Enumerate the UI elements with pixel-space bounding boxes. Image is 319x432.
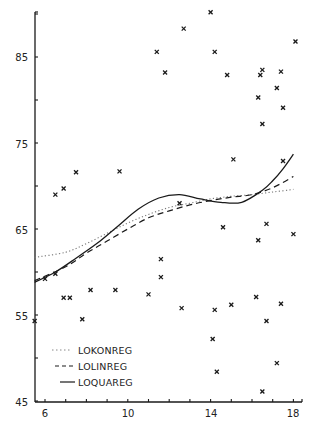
x-tick-label-14: 14 — [205, 408, 218, 419]
curve-loquareg — [35, 154, 294, 282]
x-marker-icon — [118, 169, 122, 173]
x-marker-icon — [213, 308, 217, 312]
x-marker-icon — [80, 317, 84, 321]
curve-lolinreg — [35, 177, 294, 281]
x-marker-icon — [281, 159, 285, 163]
y-tick-label-85: 85 — [15, 52, 28, 63]
y-tick-labels: 85 75 65 55 45 — [15, 52, 28, 408]
x-tick-label-18: 18 — [287, 408, 300, 419]
x-tick-label-10: 10 — [122, 408, 135, 419]
x-marker-icon — [159, 257, 163, 261]
legend-item-loquareg: LOQUAREG — [60, 377, 133, 388]
x-marker-icon — [215, 370, 219, 374]
x-marker-icon — [62, 296, 66, 300]
x-marker-icon — [264, 222, 268, 226]
legend: LOKONREG LOLINREG LOQUAREG — [52, 345, 133, 388]
x-marker-icon — [68, 296, 72, 300]
x-marker-icon — [256, 95, 260, 99]
x-marker-icon — [89, 288, 93, 292]
x-marker-icon — [279, 70, 283, 74]
x-marker-icon — [209, 10, 213, 14]
x-tick-labels: 6 10 14 18 — [42, 408, 300, 419]
x-marker-icon — [293, 40, 297, 44]
x-marker-icon — [260, 122, 264, 126]
scatter-plot: 85 75 65 55 45 6 10 14 18 LOKONREG LOLIN… — [0, 0, 319, 432]
x-marker-icon — [225, 73, 229, 77]
y-tick-label-45: 45 — [15, 397, 28, 408]
x-marker-icon — [147, 292, 151, 296]
x-marker-icon — [53, 193, 57, 197]
y-tick-label-65: 65 — [15, 225, 28, 236]
x-marker-icon — [178, 201, 182, 205]
x-marker-icon — [221, 225, 225, 229]
legend-item-lolinreg: LOLINREG — [55, 361, 127, 372]
x-tick-label-6: 6 — [42, 408, 48, 419]
x-marker-icon — [113, 288, 117, 292]
legend-label-lolinreg: LOLINREG — [78, 361, 127, 372]
x-marker-icon — [182, 27, 186, 31]
legend-label-loquareg: LOQUAREG — [78, 377, 133, 388]
x-marker-icon — [275, 86, 279, 90]
x-marker-icon — [155, 50, 159, 54]
x-marker-icon — [159, 275, 163, 279]
chart-figure: 85 75 65 55 45 6 10 14 18 LOKONREG LOLIN… — [0, 0, 319, 432]
x-marker-icon — [264, 319, 268, 323]
y-tick-label-75: 75 — [15, 139, 28, 150]
x-marker-icon — [281, 106, 285, 110]
x-marker-icon — [260, 390, 264, 394]
data-points — [33, 10, 298, 393]
regression-curves — [35, 154, 294, 282]
x-marker-icon — [275, 361, 279, 365]
x-marker-icon — [260, 68, 264, 72]
x-marker-icon — [180, 306, 184, 310]
x-marker-icon — [163, 70, 167, 74]
y-tick-label-55: 55 — [15, 311, 28, 322]
x-marker-icon — [213, 50, 217, 54]
x-marker-icon — [291, 232, 295, 236]
x-marker-icon — [74, 170, 78, 174]
x-marker-icon — [256, 238, 260, 242]
curve-lokonreg — [35, 189, 294, 257]
x-marker-icon — [258, 73, 262, 77]
legend-item-lokonreg: LOKONREG — [52, 345, 132, 356]
x-marker-icon — [231, 157, 235, 161]
x-marker-icon — [279, 302, 283, 306]
x-marker-icon — [254, 295, 258, 299]
legend-label-lokonreg: LOKONREG — [78, 345, 132, 356]
x-marker-icon — [62, 187, 66, 191]
x-marker-icon — [211, 337, 215, 341]
x-marker-icon — [229, 303, 233, 307]
